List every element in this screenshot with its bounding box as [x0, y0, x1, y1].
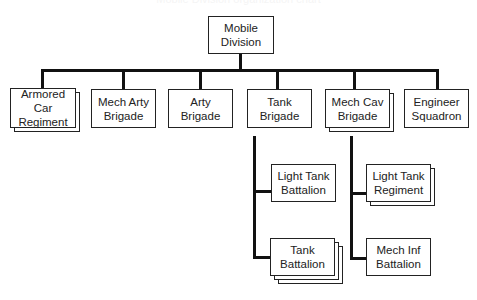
node-tank-battalion: Tank Battalion [270, 238, 343, 284]
node-label-line2: Brigade [332, 109, 384, 123]
connector-stem-tank-brigade [276, 69, 279, 89]
node-label-line2: Battalion [277, 183, 329, 197]
node-light-tank-battalion: Light Tank Battalion [271, 164, 336, 202]
node-label-line2: Squadron [412, 109, 462, 123]
node-label-line1: Light Tank [277, 169, 329, 183]
connector-stem-arty [199, 69, 202, 89]
node-armored-car-regiment: Armored Car Regiment [10, 88, 80, 132]
node-label-line1: Mech Arty [98, 95, 149, 109]
node-engineer-squadron: Engineer Squadron [404, 89, 469, 128]
connector-level1-bar [41, 69, 439, 72]
connector-mech-cav-spine [350, 136, 353, 260]
node-box: Mech Cav Brigade [325, 89, 390, 128]
node-box: Mobile Division [208, 16, 274, 54]
connector-light-tank-battalion-tick [253, 190, 271, 193]
connector-stem-armored-car [41, 69, 44, 89]
node-label-line1: Engineer [412, 95, 462, 109]
connector-light-tank-regiment-tick [350, 192, 366, 195]
connector-stem-engineer [436, 69, 439, 89]
connector-tank-battalion-tick [253, 256, 271, 259]
node-label-line2: Brigade [260, 109, 300, 123]
node-label-line1: Tank [280, 243, 325, 257]
node-label-line1: Mobile [221, 21, 261, 35]
node-box: Engineer Squadron [404, 89, 469, 128]
node-box: Mech Inf Battalion [366, 238, 431, 276]
node-light-tank-regiment: Light Tank Regiment [366, 164, 435, 206]
node-box: Arty Brigade [168, 89, 233, 128]
node-label-line1: Tank [260, 95, 300, 109]
node-label-line2: Regiment [372, 183, 424, 197]
node-mech-inf-battalion: Mech Inf Battalion [366, 238, 431, 276]
node-label-line2: Division [221, 35, 261, 49]
node-label-line1: Armored Car [11, 87, 75, 115]
node-arty-brigade: Arty Brigade [168, 89, 233, 128]
node-label-line1: Arty [181, 95, 221, 109]
node-label-line2: Battalion [376, 257, 421, 271]
node-label-line1: Light Tank [372, 169, 424, 183]
node-box: Mech Arty Brigade [91, 89, 156, 128]
node-label-line2: Brigade [98, 109, 149, 123]
node-box: Armored Car Regiment [10, 88, 76, 128]
node-label-line2: Brigade [181, 109, 221, 123]
node-label-line1: Mech Inf [376, 243, 421, 257]
node-label-line2: Battalion [280, 257, 325, 271]
connector-tank-brigade-spine [253, 136, 256, 259]
node-box: Light Tank Battalion [271, 164, 336, 202]
node-box: Light Tank Regiment [366, 164, 431, 202]
node-mech-cav-brigade: Mech Cav Brigade [325, 89, 394, 132]
connector-stem-mech-arty [122, 69, 125, 89]
node-box: Tank Brigade [247, 89, 312, 128]
node-label-line1: Mech Cav [332, 95, 384, 109]
node-mech-arty-brigade: Mech Arty Brigade [91, 89, 156, 128]
node-label-line2: Regiment [11, 115, 75, 129]
connector-stem-mech-cav [353, 69, 356, 89]
chart-title: Mobile Division organization chart [0, 0, 477, 5]
connector-mech-inf-battalion-tick [350, 257, 366, 260]
node-box: Tank Battalion [270, 238, 335, 276]
node-tank-brigade: Tank Brigade [247, 89, 312, 128]
node-mobile-division: Mobile Division [208, 16, 274, 54]
